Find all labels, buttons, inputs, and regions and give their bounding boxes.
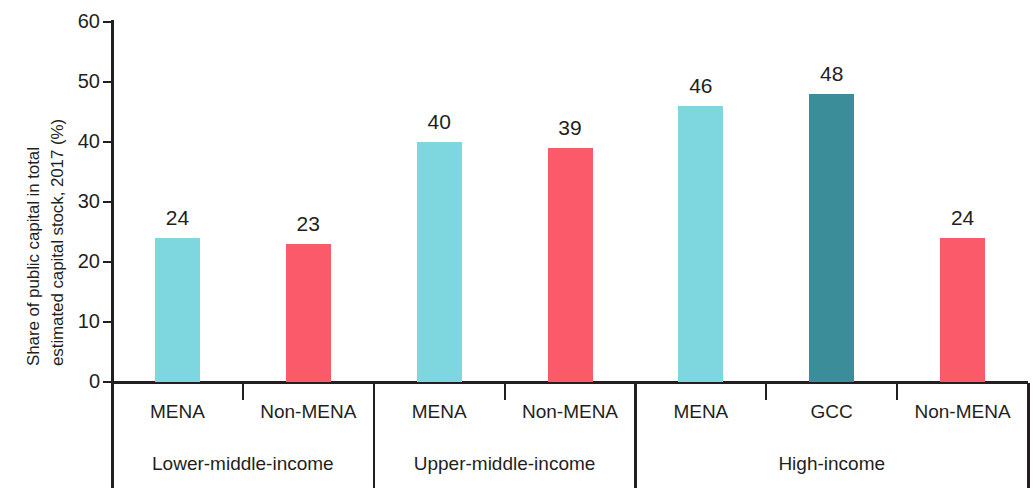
bar-value-label: 46 <box>661 75 741 96</box>
x-axis-tick-mark <box>765 383 767 400</box>
x-axis-category-label: MENA <box>631 400 771 424</box>
y-axis-tick-mark <box>103 81 112 83</box>
bar-value-label: 40 <box>399 111 479 132</box>
x-axis-group-label: Upper-middle-income <box>345 452 665 476</box>
bar <box>548 148 593 382</box>
y-axis-tick-label: 40 <box>44 131 100 151</box>
x-axis-tick-mark <box>504 383 506 400</box>
y-axis-tick-label: 0 <box>44 371 100 391</box>
x-axis-tick-mark <box>896 383 898 400</box>
bar-value-label: 24 <box>137 207 217 228</box>
bar <box>155 238 200 382</box>
bar <box>678 106 723 382</box>
x-axis-category-label: MENA <box>107 400 247 424</box>
y-axis-tick-mark <box>103 21 112 23</box>
x-axis-tick-mark <box>242 383 244 400</box>
bar <box>940 238 985 382</box>
y-axis-tick-label: 30 <box>44 191 100 211</box>
bar-value-label: 24 <box>923 207 1003 228</box>
bar-value-label: 23 <box>268 213 348 234</box>
y-axis-tick-mark <box>103 381 112 383</box>
x-axis-group-label: High-income <box>672 452 992 476</box>
y-axis-tick-mark <box>103 261 112 263</box>
x-axis-category-label: Non-MENA <box>500 400 640 424</box>
bar-value-label: 39 <box>530 117 610 138</box>
x-axis-group-separator <box>1027 383 1030 488</box>
bars-layer: 24234039464824 <box>112 22 1028 382</box>
x-axis-category-label: Non-MENA <box>238 400 378 424</box>
y-axis-tick-mark <box>103 201 112 203</box>
y-axis-tick-label: 60 <box>44 11 100 31</box>
x-axis-category-label: Non-MENA <box>893 400 1033 424</box>
bar-value-label: 48 <box>792 63 872 84</box>
y-axis-tick-mark <box>103 141 112 143</box>
bar <box>809 94 854 382</box>
y-axis-tick-label: 10 <box>44 311 100 331</box>
y-axis-tick-label: 50 <box>44 71 100 91</box>
bar <box>417 142 462 382</box>
bar <box>286 244 331 382</box>
x-axis-category-label: GCC <box>762 400 902 424</box>
y-axis-title-line-1: Share of public capital in total <box>22 147 46 366</box>
y-axis-tick-label: 20 <box>44 251 100 271</box>
y-axis-tick-mark <box>103 321 112 323</box>
x-axis-category-label: MENA <box>369 400 509 424</box>
